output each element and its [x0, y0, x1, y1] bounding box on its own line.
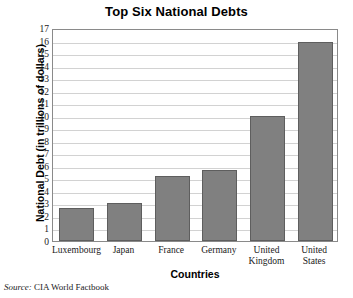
x-axis-title: Countries — [52, 268, 338, 280]
y-axis-tick-label: 6 — [28, 162, 49, 171]
y-axis-tick-label: 5 — [28, 175, 49, 184]
y-axis-tick-label: 16 — [28, 37, 49, 46]
source-label: Source: — [4, 282, 32, 292]
source-note: Source: CIA World Factbook — [4, 282, 109, 292]
x-axis-tick-label-line: States — [290, 256, 338, 267]
x-axis-tick-label-line: France — [147, 245, 195, 256]
y-axis-tick-label: 0 — [28, 238, 49, 247]
chart-title: Top Six National Debts — [0, 4, 353, 19]
y-axis-tick-label: 2 — [28, 212, 49, 221]
y-axis-tick-label: 14 — [28, 62, 49, 71]
y-axis-tick-label: 9 — [28, 125, 49, 134]
y-axis-tick-label: 7 — [28, 150, 49, 159]
x-axis-tick-label: Luxembourg — [52, 245, 100, 256]
y-axis-tick-label: 4 — [28, 187, 49, 196]
bar — [155, 176, 190, 241]
plot-area — [52, 29, 338, 242]
y-axis-tick-label: 3 — [28, 200, 49, 209]
x-axis-tick-label: France — [147, 245, 195, 256]
y-axis-tick-label: 1 — [28, 225, 49, 234]
y-axis-tick-label: 10 — [28, 112, 49, 121]
x-axis-tick-label-line: Luxembourg — [52, 245, 100, 256]
x-axis-tick-label-line: Kingdom — [243, 256, 291, 267]
y-axis-tick-label: 13 — [28, 75, 49, 84]
bar — [250, 116, 285, 241]
x-axis-tick-label-line: United — [290, 245, 338, 256]
y-axis-tick-label: 11 — [28, 100, 49, 109]
x-axis-tick-label: Japan — [100, 245, 148, 256]
x-axis-tick-label-line: Japan — [100, 245, 148, 256]
x-axis-tick-label-line: Germany — [195, 245, 243, 256]
bar-series — [53, 30, 337, 241]
x-axis-tick-label: UnitedKingdom — [243, 245, 291, 267]
bar — [202, 170, 237, 241]
y-axis-tick-label: 12 — [28, 87, 49, 96]
y-axis-tick-label: 15 — [28, 50, 49, 59]
y-axis-tick-labels: 01234567891011121314151617 — [28, 29, 49, 242]
bar — [107, 203, 142, 241]
x-axis-tick-label: UnitedStates — [290, 245, 338, 267]
x-axis-tick-label-line: United — [243, 245, 291, 256]
y-axis-tick-label: 8 — [28, 137, 49, 146]
source-text: CIA World Factbook — [34, 282, 109, 292]
x-axis-tick-label: Germany — [195, 245, 243, 256]
bar — [298, 42, 333, 241]
bar — [59, 208, 94, 241]
y-axis-tick-label: 17 — [28, 25, 49, 34]
